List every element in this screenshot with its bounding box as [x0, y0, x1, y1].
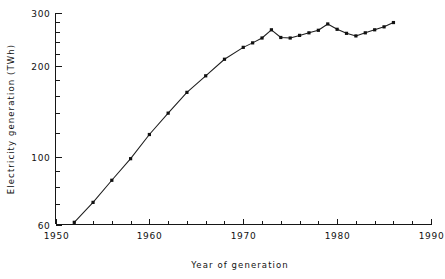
data-point: [110, 179, 113, 182]
series-line: [74, 23, 393, 223]
y-tick-label: 200: [31, 62, 50, 72]
y-axis-title: Electricity generation (TWh): [6, 44, 16, 194]
data-point: [148, 133, 151, 136]
x-axis-title: Year of generation: [190, 260, 289, 270]
y-axis-major-ticks: [56, 14, 62, 226]
data-point: [336, 28, 339, 31]
x-axis: 19501960197019801990: [44, 219, 445, 241]
y-tick-label: 60: [38, 221, 51, 231]
x-tick-label: 1990: [419, 231, 445, 241]
data-point: [279, 36, 282, 39]
data-point: [167, 112, 170, 115]
data-point: [364, 31, 367, 34]
data-point: [270, 28, 273, 31]
y-tick-label: 100: [31, 153, 50, 163]
x-tick-label: 1980: [325, 231, 351, 241]
data-point: [345, 32, 348, 35]
data-point: [382, 25, 385, 28]
data-point: [91, 201, 94, 204]
data-point: [373, 28, 376, 31]
chart-figure: 60100200300 19501960197019801990 Electri…: [0, 0, 445, 279]
line-chart: 60100200300 19501960197019801990 Electri…: [0, 0, 445, 279]
data-point: [223, 58, 226, 61]
plot-series: [73, 21, 395, 224]
series-markers: [73, 21, 395, 224]
x-tick-label: 1960: [137, 231, 163, 241]
x-axis-tick-labels: 19501960197019801990: [44, 231, 445, 241]
data-point: [251, 41, 254, 44]
data-point: [317, 29, 320, 32]
y-axis: 60100200300: [31, 9, 61, 231]
data-point: [354, 34, 357, 37]
data-point: [242, 46, 245, 49]
x-tick-label: 1950: [44, 231, 70, 241]
data-point: [289, 36, 292, 39]
y-axis-minor-ticks: [56, 23, 60, 205]
data-point: [307, 31, 310, 34]
data-point: [204, 74, 207, 77]
data-point: [129, 157, 132, 160]
y-tick-label: 300: [31, 9, 50, 19]
x-tick-label: 1970: [231, 231, 257, 241]
data-point: [392, 21, 395, 24]
data-point: [73, 221, 76, 224]
data-point: [185, 91, 188, 94]
data-point: [298, 34, 301, 37]
data-point: [260, 36, 263, 39]
data-point: [326, 22, 329, 25]
y-axis-tick-labels: 60100200300: [31, 9, 50, 231]
